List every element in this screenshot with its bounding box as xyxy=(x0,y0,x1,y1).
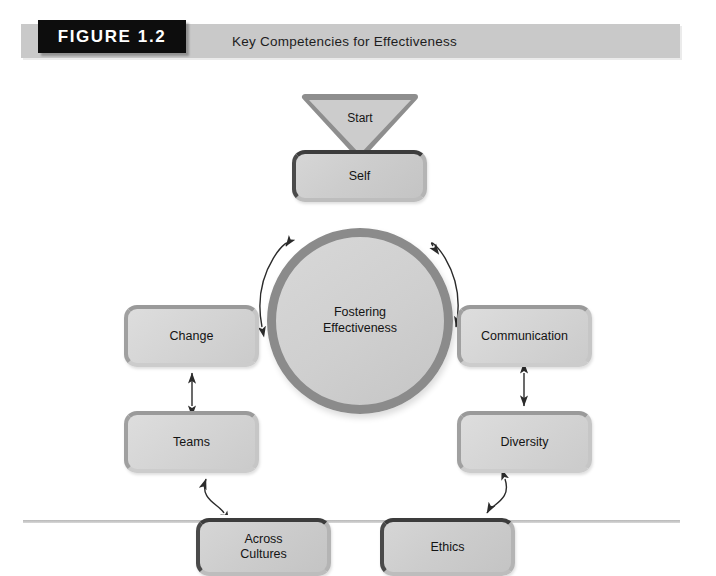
footer-divider xyxy=(23,520,680,523)
center-circle-line1: Fostering xyxy=(334,305,386,319)
node-communication[interactable]: Communication xyxy=(457,305,592,367)
node-self[interactable]: Self xyxy=(292,150,427,202)
connector-diversity-ethics xyxy=(487,479,506,513)
start-label: Start xyxy=(305,111,415,125)
node-diversity[interactable]: Diversity xyxy=(457,411,592,473)
node-across-cultures-line1: Across xyxy=(244,532,282,546)
figure-title: Key Competencies for Effectiveness xyxy=(232,24,457,58)
node-diversity-label: Diversity xyxy=(501,435,549,450)
start-triangle-shape xyxy=(305,97,415,157)
node-ethics[interactable]: Ethics xyxy=(380,518,515,576)
node-across-cultures[interactable]: Across Cultures xyxy=(196,518,331,576)
connector-across-teams xyxy=(205,479,224,513)
figure-number-badge: FIGURE 1.2 xyxy=(38,20,186,53)
node-teams-label: Teams xyxy=(173,435,210,450)
node-ethics-label: Ethics xyxy=(430,540,464,555)
center-circle-fostering-effectiveness: Fostering Effectiveness xyxy=(267,228,453,414)
center-circle-line2: Effectiveness xyxy=(323,320,397,336)
node-self-label: Self xyxy=(349,169,371,184)
competency-cycle-diagram: Start Fostering Effectiveness Self Chang… xyxy=(0,70,716,515)
node-communication-label: Communication xyxy=(481,329,568,344)
node-across-cultures-line2: Cultures xyxy=(240,547,287,562)
node-change-label: Change xyxy=(170,329,214,344)
node-change[interactable]: Change xyxy=(124,305,259,367)
node-teams[interactable]: Teams xyxy=(124,411,259,473)
